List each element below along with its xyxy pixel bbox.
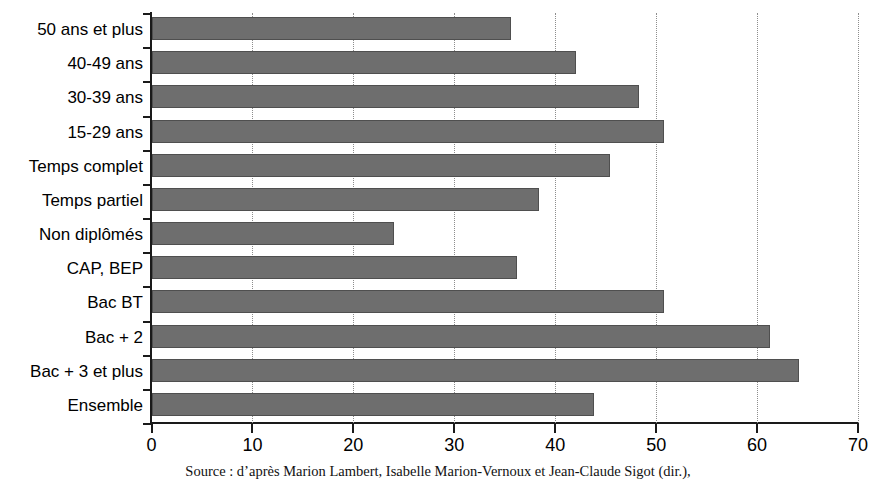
x-axis-tick-40 [554, 424, 556, 433]
y-axis-tick [143, 218, 151, 220]
y-axis-tick [143, 321, 151, 323]
bar [152, 359, 800, 382]
bar [152, 393, 594, 416]
bar-row [152, 321, 858, 355]
x-axis-tick-label: 40 [525, 434, 585, 456]
bar-row [152, 116, 858, 150]
bar [152, 154, 610, 177]
bar [152, 17, 511, 40]
y-axis-tick [143, 286, 151, 288]
x-axis-tick-70 [857, 424, 859, 433]
x-axis-tick-label: 30 [424, 434, 484, 456]
x-axis-tick-label: 50 [626, 434, 686, 456]
category-label: Bac BT [0, 286, 143, 320]
y-axis-tick [143, 81, 151, 83]
x-axis-tick-30 [453, 424, 455, 433]
bar [152, 188, 540, 211]
bar [152, 222, 394, 245]
x-axis-tick-60 [756, 424, 758, 433]
bar-row [152, 184, 858, 218]
bar-row [152, 13, 858, 47]
bar [152, 51, 577, 74]
y-axis-tick [143, 389, 151, 391]
bar-row [152, 47, 858, 81]
bar [152, 85, 639, 108]
y-axis-tick [143, 47, 151, 49]
category-label: Ensemble [0, 389, 143, 423]
category-label: CAP, BEP [0, 252, 143, 286]
category-label: Temps partiel [0, 184, 143, 218]
category-label: Temps complet [0, 150, 143, 184]
category-label: 15-29 ans [0, 116, 143, 150]
bar [152, 290, 665, 313]
bar [152, 120, 665, 143]
y-axis-tick [143, 116, 151, 118]
gridline-70 [858, 13, 860, 423]
plot-area [152, 13, 859, 423]
x-axis-tick-label: 70 [828, 434, 876, 456]
x-axis-tick-label: 20 [323, 434, 383, 456]
y-axis-tick [143, 184, 151, 186]
category-axis-labels: 50 ans et plus40-49 ans30-39 ans15-29 an… [0, 13, 143, 423]
bar-chart-figure: 50 ans et plus40-49 ans30-39 ans15-29 an… [0, 0, 876, 488]
category-label: Bac + 3 et plus [0, 355, 143, 389]
x-axis-tick-label: 60 [727, 434, 787, 456]
bar-row [152, 389, 858, 423]
category-label: 30-39 ans [0, 81, 143, 115]
y-axis-tick [143, 13, 151, 15]
y-axis-tick [143, 355, 151, 357]
x-axis-tick-label: 10 [222, 434, 282, 456]
x-axis-tick-label: 0 [122, 434, 182, 456]
source-caption: Source : d’après Marion Lambert, Isabell… [0, 463, 876, 480]
bar-row [152, 218, 858, 252]
category-label: 40-49 ans [0, 47, 143, 81]
bar-row [152, 286, 858, 320]
category-label: Non diplômés [0, 218, 143, 252]
category-label: Bac + 2 [0, 321, 143, 355]
x-axis-tick-20 [352, 424, 354, 433]
y-axis-tick [143, 150, 151, 152]
y-axis-tick [143, 252, 151, 254]
bar-row [152, 355, 858, 389]
bar-row [152, 81, 858, 115]
x-axis-tick-10 [251, 424, 253, 433]
bar [152, 325, 771, 348]
category-label: 50 ans et plus [0, 13, 143, 47]
x-axis-tick-0 [151, 424, 153, 433]
bar-row [152, 252, 858, 286]
bar [152, 256, 517, 279]
bar-row [152, 150, 858, 184]
x-axis-tick-50 [655, 424, 657, 433]
